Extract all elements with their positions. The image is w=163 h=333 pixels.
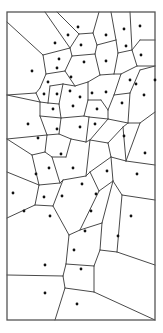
site-point (43, 93, 46, 96)
site-point (79, 126, 82, 129)
site-point (52, 108, 55, 111)
site-point (56, 128, 59, 131)
site-point (67, 34, 70, 37)
site-point (27, 123, 30, 126)
site-point (69, 90, 72, 93)
site-point (95, 193, 98, 196)
site-point (44, 292, 47, 295)
site-point (37, 137, 40, 140)
site-point (135, 83, 138, 86)
site-point (139, 25, 142, 28)
site-point (70, 76, 73, 79)
site-point (94, 123, 97, 126)
voronoi-diagram (0, 0, 163, 333)
site-point (47, 81, 50, 84)
site-point (54, 42, 57, 45)
site-point (72, 167, 75, 170)
site-point (58, 58, 61, 61)
site-point (80, 44, 83, 47)
site-point (49, 215, 52, 218)
site-point (73, 249, 76, 252)
site-point (91, 92, 94, 95)
site-point (56, 67, 59, 70)
site-point (136, 173, 139, 176)
diagram-background (0, 0, 163, 333)
site-point (80, 268, 83, 271)
site-point (60, 153, 63, 156)
site-point (31, 70, 34, 73)
site-point (90, 210, 93, 213)
site-point (144, 152, 147, 155)
site-point (43, 196, 46, 199)
site-point (72, 105, 75, 108)
site-point (77, 26, 80, 29)
site-point (83, 61, 86, 64)
site-point (154, 79, 157, 82)
site-point (44, 264, 47, 267)
site-point (76, 303, 79, 306)
site-point (117, 235, 120, 238)
site-point (35, 173, 38, 176)
site-point (96, 108, 99, 111)
site-point (81, 183, 84, 186)
site-point (129, 79, 132, 82)
site-point (105, 34, 108, 37)
site-point (84, 230, 87, 233)
site-point (61, 195, 64, 198)
site-point (105, 60, 108, 63)
site-point (105, 91, 108, 94)
site-point (23, 210, 26, 213)
site-point (121, 102, 124, 105)
site-point (130, 215, 133, 218)
site-point (125, 45, 128, 48)
site-point (79, 96, 82, 99)
site-point (140, 54, 143, 57)
site-point (123, 28, 126, 31)
site-point (106, 170, 109, 173)
site-point (123, 135, 126, 138)
site-point (143, 94, 146, 97)
site-point (56, 93, 59, 96)
site-point (48, 167, 51, 170)
site-point (12, 192, 15, 195)
